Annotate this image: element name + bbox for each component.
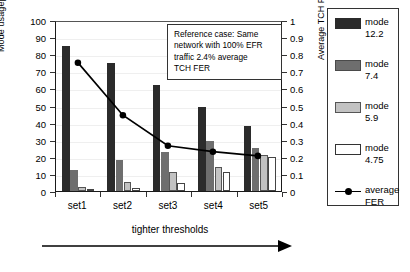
note-line-2: network with 100% EFR (174, 40, 276, 51)
right-axis-tick-label: 0.4 (290, 118, 303, 129)
right-axis-tick (282, 175, 287, 176)
left-axis-tick-label: 50 (35, 101, 46, 112)
right-axis-title: Average TCH FER [%] (316, 0, 326, 60)
left-axis-title: Mode usage[%] (0, 0, 6, 52)
legend-label-name: mode (365, 58, 389, 70)
note-line-1: Reference case: Same (174, 29, 276, 40)
right-axis-tick (282, 21, 287, 22)
right-axis: 00.10.20.30.40.50.60.70.80.91 Average TC… (282, 0, 332, 272)
right-axis-tick-label: 0.1 (290, 169, 303, 180)
legend-label-value: 5.9 (365, 112, 389, 124)
legend-item-mode-7.4[interactable]: mode7.4 (335, 59, 398, 93)
right-axis-tick (282, 55, 287, 56)
x-axis-tick (191, 192, 192, 197)
note-line-4: TCH FER (174, 63, 276, 74)
right-axis-tick (282, 38, 287, 39)
right-axis-tick (282, 89, 287, 90)
x-axis-label-set5: set5 (249, 200, 268, 211)
left-axis-tick-label: 80 (35, 50, 46, 61)
x-axis-tick (100, 192, 101, 197)
x-axis-label-set4: set4 (204, 200, 223, 211)
fer-marker-set1 (75, 59, 82, 66)
right-axis-tick (282, 124, 287, 125)
legend-swatch-filled-black (335, 18, 361, 29)
legend-label-name: mode (365, 100, 389, 112)
note-line-3: traffic 2.4% average (174, 52, 276, 63)
right-axis-tick (282, 107, 287, 108)
left-axis-tick-label: 100 (30, 16, 46, 27)
left-axis-tick-label: 90 (35, 33, 46, 44)
x-axis-label-set1: set1 (68, 200, 87, 211)
x-axis-tick (146, 192, 147, 197)
right-axis-tick-label: 1 (290, 16, 295, 27)
left-axis-tick-label: 10 (35, 169, 46, 180)
x-axis-tick (237, 192, 238, 197)
legend-label-name: mode (365, 16, 389, 28)
legend-item-mode-5.9[interactable]: mode5.9 (335, 101, 398, 135)
legend-label-value: 12.2 (365, 28, 389, 40)
right-axis-tick (282, 192, 287, 193)
right-axis-tick-label: 0.2 (290, 152, 303, 163)
x-axis-label-set2: set2 (113, 200, 132, 211)
legend-swatch-outlined-white (335, 144, 361, 155)
fer-marker-set4 (210, 148, 217, 155)
legend-marker-icon (345, 188, 352, 195)
legend-label-value: FER (365, 196, 399, 208)
legend-label: mode12.2 (365, 16, 389, 40)
right-axis-tick-label: 0.9 (290, 33, 303, 44)
legend-label: mode4.75 (365, 142, 389, 166)
left-axis-tick-label: 40 (35, 118, 46, 129)
x-axis-tick (55, 192, 56, 197)
legend-label-name: mode (365, 142, 389, 154)
legend-label: averageFER (365, 184, 399, 208)
right-axis-tick-label: 0 (290, 187, 295, 198)
fer-marker-set2 (120, 112, 127, 119)
legend-label-value: 4.75 (365, 154, 389, 166)
tighter-thresholds-arrow-icon (40, 236, 300, 256)
left-axis: Mode usage[%] 0102030405060708090100 (0, 0, 55, 272)
right-axis-tick-label: 0.7 (290, 67, 303, 78)
right-axis-tick-label: 0.6 (290, 84, 303, 95)
left-axis-tick-label: 70 (35, 67, 46, 78)
right-axis-tick (282, 72, 287, 73)
legend-label: mode7.4 (365, 58, 389, 82)
left-axis-tick-label: 60 (35, 84, 46, 95)
chart-legend: mode12.2mode7.4mode5.9mode4.75averageFER (327, 8, 399, 206)
right-axis-tick-label: 0.5 (290, 101, 303, 112)
reference-case-note: Reference case: Same network with 100% E… (167, 24, 282, 80)
right-axis-tick (282, 141, 287, 142)
left-axis-tick-label: 0 (41, 187, 46, 198)
x-axis-label-set3: set3 (158, 200, 177, 211)
legend-swatch-filled-darkgray (335, 60, 361, 71)
legend-item-mode-12.2[interactable]: mode12.2 (335, 17, 398, 51)
legend-item-average-FER[interactable]: averageFER (335, 185, 398, 219)
fer-marker-set5 (255, 153, 262, 160)
legend-item-mode-4.75[interactable]: mode4.75 (335, 143, 398, 177)
right-axis-tick (282, 158, 287, 159)
legend-label-name: average (365, 184, 399, 196)
left-axis-tick-label: 20 (35, 152, 46, 163)
legend-swatch-filled-lightgray (335, 102, 361, 113)
right-axis-tick-label: 0.3 (290, 135, 303, 146)
legend-label-value: 7.4 (365, 70, 389, 82)
legend-label: mode5.9 (365, 100, 389, 124)
x-axis-caption: tighter thresholds (55, 224, 285, 235)
right-axis-tick-label: 0.8 (290, 50, 303, 61)
fer-marker-set3 (165, 142, 172, 149)
left-axis-tick-label: 30 (35, 135, 46, 146)
